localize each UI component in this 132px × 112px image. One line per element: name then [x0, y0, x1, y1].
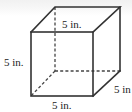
- label-right-edge: 5 in: [114, 84, 131, 95]
- label-top-edge: 5 in.: [62, 19, 82, 30]
- cube-diagram: 5 in. 5 in. 5 in. 5 in: [0, 0, 132, 112]
- label-left-edge: 5 in.: [4, 57, 24, 68]
- hidden-edge-bottom-diagonal: [31, 71, 55, 96]
- label-bottom-edge: 5 in.: [52, 100, 72, 111]
